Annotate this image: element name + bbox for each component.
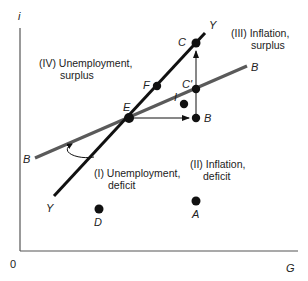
region-iv-line1: (IV) Unemployment,: [39, 57, 132, 69]
point-i: [180, 100, 188, 108]
origin-label: 0: [10, 258, 16, 270]
label-a: A: [192, 208, 199, 220]
region-iii-label: (III) Inflation, surplus: [231, 27, 289, 51]
point-b: [192, 114, 200, 122]
label-i: I: [174, 91, 177, 103]
region-iii-line2: surplus: [231, 39, 289, 51]
region-iv-line2: surplus: [39, 69, 132, 81]
region-ii-label: (II) Inflation, deficit: [190, 158, 245, 182]
label-e: E: [123, 101, 130, 113]
region-iii-line1: (III) Inflation,: [231, 27, 289, 39]
point-c-prime: [192, 85, 200, 93]
point-d: [95, 205, 104, 214]
label-c: C: [178, 36, 186, 48]
label-c-prime: C': [182, 78, 192, 90]
bb-label-start: B: [23, 153, 30, 165]
label-f: F: [143, 79, 150, 91]
y-axis-label: i: [18, 10, 20, 22]
label-b: B: [204, 112, 211, 124]
point-f: [153, 82, 161, 90]
point-e: [124, 113, 134, 123]
region-i-line2: deficit: [94, 179, 180, 191]
yy-label-start: Y: [46, 202, 53, 214]
region-ii-line2: deficit: [190, 170, 245, 182]
point-a: [192, 197, 201, 206]
point-c: [192, 39, 201, 48]
bb-label-end: B: [251, 61, 258, 73]
region-iv-label: (IV) Unemployment, surplus: [39, 57, 132, 81]
x-axis-label: G: [286, 262, 295, 274]
label-d: D: [94, 216, 102, 228]
region-ii-line1: (II) Inflation,: [190, 158, 245, 170]
region-i-label: (I) Unemployment, deficit: [94, 167, 180, 191]
region-i-line1: (I) Unemployment,: [94, 167, 180, 179]
yy-label-end: Y: [209, 19, 216, 31]
